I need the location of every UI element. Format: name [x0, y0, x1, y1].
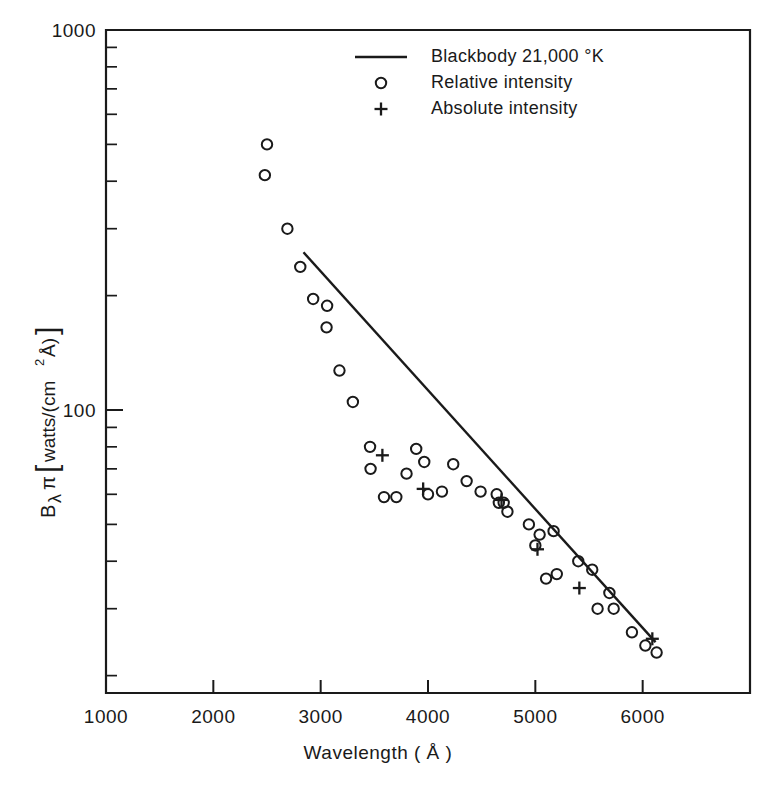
relative-intensity-point	[348, 397, 358, 407]
y-title-angstrom: Å)	[38, 338, 59, 357]
relative-intensity-point	[592, 603, 602, 613]
relative-intensity-point	[461, 476, 471, 486]
plot-frame	[106, 30, 750, 693]
relative-intensity-point	[308, 294, 318, 304]
x-axis-tick-label: 6000	[621, 706, 665, 727]
y-title-bracket-open: [	[30, 464, 63, 473]
relative-intensity-point	[448, 459, 458, 469]
legend-circle-swatch	[376, 78, 386, 88]
x-axis-tick-label: 2000	[191, 706, 235, 727]
relative-intensity-point	[608, 603, 618, 613]
relative-intensity-point	[524, 519, 534, 529]
relative-intensity-point	[541, 573, 551, 583]
relative-intensity-point	[411, 444, 421, 454]
relative-intensity-point	[379, 492, 389, 502]
x-axis-title: Wavelength ( Å )	[304, 742, 453, 763]
relative-intensity-point	[423, 489, 433, 499]
relative-intensity-point	[295, 262, 305, 272]
relative-intensity-point	[401, 468, 411, 478]
y-title-exponent: 2	[32, 359, 47, 366]
relative-intensity-point	[437, 486, 447, 496]
relative-intensity-point	[552, 569, 562, 579]
y-title-pi: π	[37, 476, 59, 490]
blackbody-spectrum-figure: 100020003000400050006000Wavelength ( Å )…	[0, 0, 772, 787]
legend-entry-label: Relative intensity	[431, 72, 572, 92]
relative-intensity-point	[260, 170, 270, 180]
y-title-lambda: λ	[45, 494, 65, 503]
relative-intensity-point	[534, 529, 544, 539]
relative-intensity-point	[334, 365, 344, 375]
relative-intensity-point	[651, 647, 661, 657]
relative-intensity-point	[627, 627, 637, 637]
x-axis-tick-label: 5000	[513, 706, 557, 727]
relative-intensity-point	[365, 464, 375, 474]
y-title-b: B	[37, 505, 59, 518]
relative-intensity-point	[640, 640, 650, 650]
relative-intensity-point	[475, 486, 485, 496]
relative-intensity-point	[419, 457, 429, 467]
blackbody-curve	[303, 252, 655, 642]
relative-intensity-point	[391, 492, 401, 502]
x-axis-tick-label: 1000	[84, 706, 128, 727]
relative-intensity-point	[321, 322, 331, 332]
relative-intensity-point	[282, 223, 292, 233]
y-title-bracket-close: ]	[30, 327, 63, 335]
y-title-watts: watts/(cm	[38, 381, 59, 463]
y-axis-title: Bλπ[watts/(cm2Å)]	[30, 327, 65, 518]
y-axis-tick-label: 1000	[52, 20, 96, 41]
relative-intensity-point	[502, 506, 512, 516]
legend-entry-label: Absolute intensity	[431, 98, 577, 118]
relative-intensity-point	[365, 442, 375, 452]
relative-intensity-point	[262, 139, 272, 149]
legend-entry-label: Blackbody 21,000 °K	[431, 46, 604, 66]
chart-canvas: 100020003000400050006000Wavelength ( Å )…	[0, 0, 772, 787]
relative-intensity-point	[322, 301, 332, 311]
x-axis-tick-label: 4000	[406, 706, 450, 727]
y-axis-tick-label: 100	[63, 400, 96, 421]
x-axis-tick-label: 3000	[299, 706, 343, 727]
